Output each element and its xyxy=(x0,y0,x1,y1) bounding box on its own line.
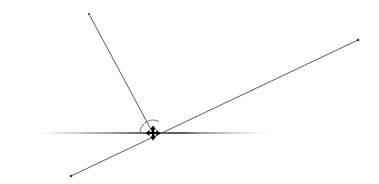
endpoint-top-left[interactable] xyxy=(88,13,90,15)
diagram-canvas: Intersecting lines angle diagram vertex xyxy=(0,0,379,184)
endpoint-bottom-left[interactable] xyxy=(70,175,73,178)
endpoint-upper-right[interactable] xyxy=(357,39,360,42)
canvas-background xyxy=(0,0,379,184)
geometry-svg xyxy=(0,0,379,184)
